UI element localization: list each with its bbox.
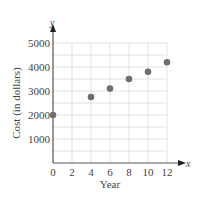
y-axis-name: y: [49, 17, 55, 28]
data-point: [164, 59, 171, 66]
data-point: [88, 94, 95, 101]
x-tick-label: 4: [88, 166, 94, 178]
y-tick-label: 2000: [28, 109, 51, 121]
y-tick-label: 3000: [28, 85, 51, 97]
scatter-chart: 02468101210002000300040005000 Year Cost …: [0, 0, 199, 199]
data-point: [50, 112, 57, 119]
data-point: [126, 76, 133, 83]
x-axis-name: x: [185, 158, 191, 169]
y-tick-label: 5000: [28, 37, 51, 49]
y-tick-label: 1000: [28, 133, 51, 145]
x-axis-label: Year: [100, 178, 121, 190]
data-point: [145, 69, 152, 76]
x-tick-label: 2: [69, 166, 75, 178]
axes: [50, 24, 186, 166]
y-tick-label: 4000: [28, 61, 51, 73]
x-tick-label: 8: [126, 166, 132, 178]
x-tick-label: 0: [50, 166, 56, 178]
x-tick-label: 6: [107, 166, 113, 178]
data-point: [107, 85, 114, 92]
y-axis-label: Cost (in dollars): [10, 67, 23, 139]
x-axis-arrow-icon: [178, 160, 186, 166]
tick-labels: 02468101210002000300040005000: [28, 37, 173, 178]
x-tick-label: 10: [143, 166, 155, 178]
x-tick-label: 12: [162, 166, 173, 178]
grid: [53, 43, 167, 163]
